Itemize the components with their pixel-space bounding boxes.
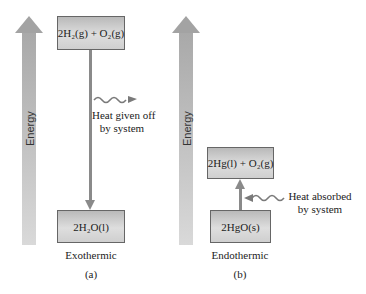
heat-absorbed-label: Heat absorbed by system xyxy=(286,190,354,216)
heat-label-line1: Heat absorbed xyxy=(286,190,354,203)
energy-diagram: Energy 2H₂(g) + O₂(g) 2H₂O(l) Heat given… xyxy=(0,0,366,294)
energy-change-arrow xyxy=(239,188,242,210)
reactant-state-box: 2H₂(g) + O₂(g) xyxy=(57,16,125,50)
energy-axis-label: Energy xyxy=(181,111,193,146)
panel-letter: (b) xyxy=(200,268,280,280)
energy-axis-arrowhead-icon xyxy=(172,16,200,33)
arrow-down-icon xyxy=(85,200,95,210)
process-label: Exothermic xyxy=(57,249,125,261)
product-state-box: 2H₂O(l) xyxy=(57,210,125,243)
heat-label-line1: Heat given off xyxy=(92,109,152,122)
wavy-heat-arrow-icon xyxy=(92,93,142,107)
panel-letter: (a) xyxy=(57,268,125,280)
wavy-heat-arrow-icon xyxy=(243,191,291,205)
energy-axis-label: Energy xyxy=(24,111,36,146)
heat-label-line2: by system xyxy=(286,203,354,216)
process-label: Endothermic xyxy=(200,249,280,261)
reactant-state-box: 2HgO(s) xyxy=(210,210,271,243)
heat-label-line2: by system xyxy=(92,122,152,135)
energy-axis-arrowhead-icon xyxy=(15,16,43,33)
heat-given-off-label: Heat given off by system xyxy=(92,109,152,135)
product-state-box: 2Hg(l) + O₂(g) xyxy=(207,147,274,179)
